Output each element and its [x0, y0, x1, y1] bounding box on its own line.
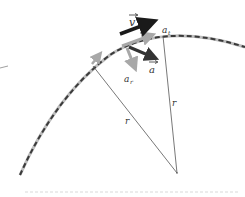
- edge-mark: [0, 66, 8, 68]
- svg-text:a: a: [162, 25, 167, 35]
- tangential-label: a t: [162, 25, 171, 36]
- acceleration-arrow: [129, 47, 155, 58]
- svg-text:a: a: [124, 74, 129, 84]
- radial-accel-arrow: [127, 48, 135, 68]
- acceleration-label: a: [149, 61, 158, 76]
- velocity-arrow: [120, 22, 152, 34]
- trajectory-path: [20, 36, 245, 175]
- kinematics-diagram: v a t a a r r r: [0, 0, 245, 197]
- svg-text:a: a: [149, 64, 155, 75]
- radius-label-1: r: [125, 116, 130, 126]
- trajectory-path-light: [20, 36, 245, 175]
- center-point: [176, 172, 178, 174]
- svg-text:r: r: [130, 78, 134, 85]
- radius-line-1: [93, 66, 177, 173]
- svg-text:v: v: [129, 16, 136, 29]
- radial-label: a r: [124, 74, 134, 85]
- radius-label-2: r: [172, 98, 177, 108]
